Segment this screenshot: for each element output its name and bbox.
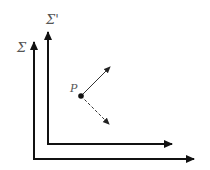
frame-sigma-label: Σ [16,40,27,55]
frame-sigma-prime-label: Σ' [45,12,59,27]
frame-sigma-prime: Σ' [45,12,172,144]
point-p-label: P [69,82,78,95]
diagram-canvas: Σ Σ' P [0,0,210,170]
frame-sigma: Σ [16,40,194,159]
dashed-vector-arrow [81,96,109,124]
solid-vector-arrow [81,67,110,96]
point-p-dot [78,93,84,99]
